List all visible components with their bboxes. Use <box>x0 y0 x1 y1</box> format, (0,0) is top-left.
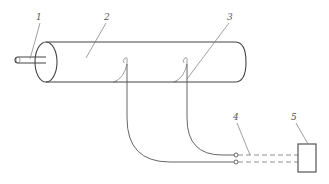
label-5: 5 <box>291 112 297 122</box>
probe-a <box>113 58 127 82</box>
label-3: 3 <box>227 12 233 22</box>
label-1: 1 <box>36 12 42 22</box>
instrument-box <box>298 144 316 172</box>
cable <box>238 155 298 162</box>
probe-b <box>173 58 187 82</box>
label-2: 2 <box>103 12 110 22</box>
cylinder-body <box>35 42 246 82</box>
wire-b <box>187 64 234 155</box>
label-4: 4 <box>232 112 239 122</box>
connector-lower <box>234 160 238 164</box>
schematic-diagram: 1 2 3 4 5 <box>0 0 329 184</box>
connector-upper <box>234 153 238 157</box>
wire-a <box>127 64 234 162</box>
leader-lines <box>30 23 308 155</box>
